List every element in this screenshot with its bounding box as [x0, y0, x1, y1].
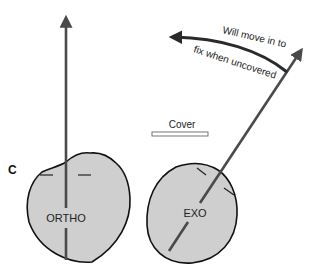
diagram-canvas: ORTHO EXO Cover Will move in to fix when…: [0, 0, 318, 278]
ortho-label: ORTHO: [46, 212, 86, 224]
exo-label: EXO: [183, 207, 207, 219]
exo-visual-axis: [200, 52, 300, 203]
cover-label: Cover: [169, 119, 196, 130]
refixation-arrow: Will move in to fix when uncovered: [174, 24, 288, 80]
ortho-eye: ORTHO: [27, 20, 130, 262]
cover-test-diagram: ORTHO EXO Cover Will move in to fix when…: [0, 0, 318, 278]
cover-bar: [152, 132, 208, 136]
panel-label: C: [8, 163, 17, 177]
exo-eye: EXO: [147, 52, 300, 263]
ortho-eyeball: [27, 153, 130, 262]
annotation-line-2: fix when uncovered: [192, 43, 277, 80]
cover-indicator: Cover: [152, 119, 208, 136]
